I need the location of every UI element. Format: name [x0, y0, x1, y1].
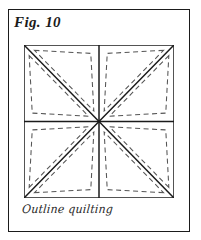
figure-label: Fig. 10: [14, 14, 61, 31]
figure-page: Fig. 10 Outline quilting: [0, 0, 201, 240]
seam-line-layer: [24, 45, 174, 198]
quilt-diagram-svg: [24, 45, 174, 198]
quilt-block-diagram: [24, 45, 174, 198]
figure-caption: Outline quilting: [21, 203, 113, 217]
